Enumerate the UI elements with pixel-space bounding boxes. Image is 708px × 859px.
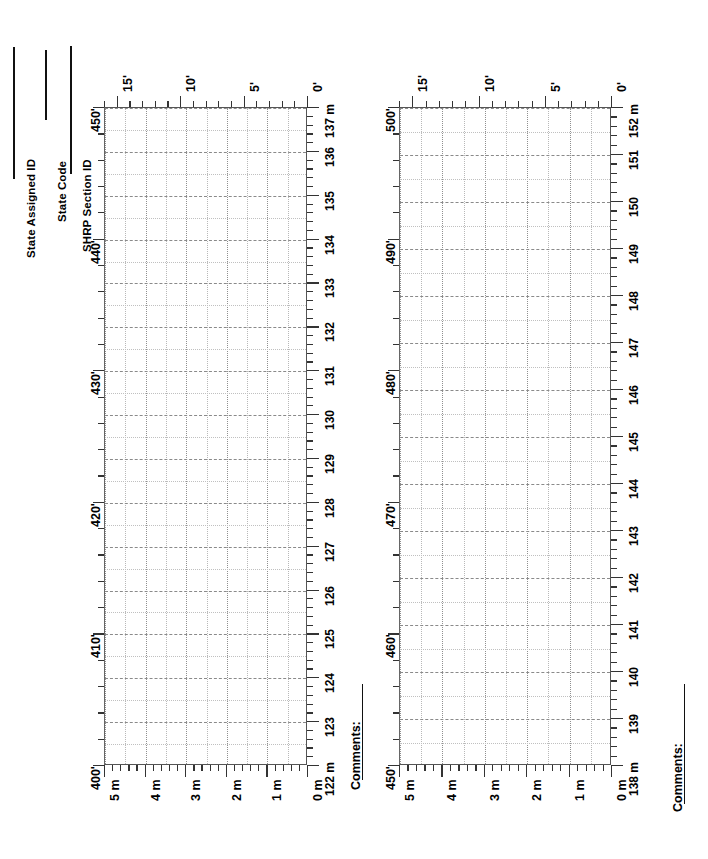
tick-minor-length-m-right — [611, 464, 617, 465]
axis-label-length-ft: 450' — [90, 108, 103, 132]
gridline-horizontal — [400, 367, 610, 368]
tick-minor-width-ft-top — [269, 101, 270, 107]
gridline-horizontal — [400, 390, 610, 391]
axis-label-length-m: 145 — [628, 432, 640, 452]
comments-input-2[interactable] — [684, 684, 685, 804]
tick-minor-length-m-right — [307, 423, 313, 424]
tick-minor-length-m-right — [307, 616, 313, 617]
tick-major-length-m-right — [307, 633, 319, 634]
tick-minor-length-m-right — [611, 229, 617, 230]
tick-minor-length-m-right — [611, 596, 617, 597]
tick-minor-length-ft-left — [393, 686, 399, 687]
header-label-shrp-section-id: SHRP Section ID — [82, 159, 94, 252]
axis-label-length-m: 125 — [324, 629, 336, 649]
gridline-horizontal — [400, 202, 610, 203]
tick-minor-width-m-bottom — [169, 765, 170, 771]
tick-minor-width-ft-top — [598, 101, 599, 107]
tick-minor-length-m-right — [611, 539, 617, 540]
axis-label-length-m: 124 — [324, 673, 336, 693]
gridline-horizontal — [105, 459, 306, 460]
tick-minor-length-m-right — [611, 126, 617, 127]
tick-minor-width-m-bottom — [535, 765, 536, 771]
plot-frame[interactable] — [104, 107, 307, 765]
gridline-vertical — [548, 108, 549, 764]
tick-minor-length-ft-left — [98, 318, 104, 319]
tick-minor-length-m-right — [307, 704, 313, 705]
tick-major-length-m-right — [307, 282, 319, 283]
axis-label-length-m: 148 — [628, 291, 640, 311]
tick-minor-width-ft-top — [399, 101, 400, 107]
tick-major-width-m-bottom — [526, 765, 527, 777]
tick-major-length-m-right — [611, 577, 623, 578]
gridline-horizontal — [105, 327, 306, 328]
axis-label-width-ft: 0' — [616, 82, 629, 92]
gridline-horizontal — [105, 569, 306, 570]
tick-minor-length-ft-left — [98, 712, 104, 713]
tick-minor-length-m-right — [611, 455, 617, 456]
gridline-horizontal — [105, 130, 306, 131]
tick-minor-width-m-bottom — [416, 765, 417, 771]
tick-minor-length-m-right — [307, 625, 313, 626]
tick-minor-width-ft-top — [558, 101, 559, 107]
tick-minor-length-m-right — [611, 586, 617, 587]
tick-minor-length-m-right — [307, 265, 313, 266]
gridline-horizontal — [400, 508, 610, 509]
axis-label-length-m: 144 — [628, 479, 640, 499]
header-input-state-assigned-id[interactable] — [13, 47, 15, 179]
tick-minor-length-m-right — [307, 467, 313, 468]
plot-frame[interactable] — [399, 107, 611, 765]
tick-minor-width-m-bottom — [594, 765, 595, 771]
tick-minor-length-m-right — [307, 204, 313, 205]
comments-input-1[interactable] — [362, 684, 363, 780]
tick-minor-width-m-bottom — [120, 765, 121, 771]
tick-major-length-m-right — [307, 107, 319, 108]
gridline-horizontal — [105, 678, 306, 679]
tick-major-length-m-right — [611, 718, 623, 719]
tick-minor-width-m-bottom — [603, 765, 604, 771]
gridline-horizontal — [400, 696, 610, 697]
gridline-horizontal — [400, 649, 610, 650]
tick-minor-length-m-right — [611, 116, 617, 117]
tick-minor-width-m-bottom — [291, 765, 292, 771]
tick-minor-length-m-right — [307, 511, 313, 512]
tick-minor-length-m-right — [611, 568, 617, 569]
tick-minor-length-m-right — [611, 304, 617, 305]
tick-major-length-m-right — [611, 765, 623, 766]
tick-minor-width-ft-top — [452, 101, 453, 107]
tick-minor-width-ft-top — [282, 101, 283, 107]
plot-area[interactable] — [399, 107, 611, 765]
gridline-vertical — [485, 108, 486, 764]
tick-major-length-m-right — [611, 624, 623, 625]
tick-major-length-m-right — [307, 326, 319, 327]
tick-minor-length-m-right — [611, 643, 617, 644]
tick-minor-length-ft-left — [98, 291, 104, 292]
header-input-state-code[interactable] — [45, 50, 47, 120]
tick-minor-length-ft-left — [393, 660, 399, 661]
gridline-horizontal — [105, 152, 306, 153]
tick-minor-width-m-bottom — [560, 765, 561, 771]
gridline-vertical — [105, 108, 106, 764]
axis-label-width-m: 2 m — [231, 779, 244, 801]
tick-major-width-m-bottom — [266, 765, 267, 777]
gridline-vertical — [442, 108, 443, 764]
tick-minor-length-m-right — [307, 168, 313, 169]
plot-area[interactable] — [104, 107, 307, 765]
gridline-horizontal — [105, 218, 306, 219]
gridline-horizontal — [105, 503, 306, 504]
header-input-shrp-section-id[interactable] — [70, 46, 72, 174]
tick-minor-length-ft-left — [393, 607, 399, 608]
tick-minor-length-m-right — [307, 440, 313, 441]
tick-minor-length-m-right — [307, 598, 313, 599]
tick-minor-width-m-bottom — [210, 765, 211, 771]
gridline-horizontal — [105, 196, 306, 197]
tick-minor-length-m-right — [307, 712, 313, 713]
tick-major-width-ft-top — [244, 96, 245, 107]
gridline-horizontal — [105, 700, 306, 701]
axis-label-width-ft: 0' — [312, 82, 325, 92]
tick-minor-width-m-bottom — [136, 765, 137, 771]
tick-minor-width-ft-top — [465, 101, 466, 107]
gridline-horizontal — [400, 555, 610, 556]
axis-label-length-m: 134 — [324, 235, 336, 255]
tick-major-length-m-right — [307, 546, 319, 547]
gridline-horizontal — [400, 625, 610, 626]
